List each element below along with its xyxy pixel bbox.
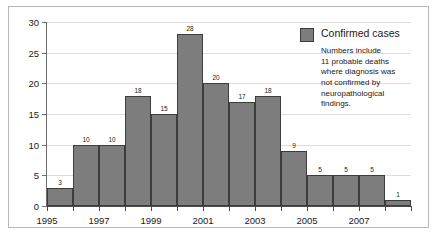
bar-value-label: 20 <box>212 74 219 81</box>
y-tick-label: 10 <box>28 139 39 150</box>
x-tick-label: 1995 <box>36 215 57 226</box>
x-tick-label: 2007 <box>348 215 369 226</box>
y-tick-mark <box>42 145 47 146</box>
x-tick-label: 2001 <box>192 215 213 226</box>
bar-value-label: 10 <box>82 136 89 143</box>
bar-value-label: 18 <box>264 87 271 94</box>
chart-legend: Confirmed cases Numbers include11 probab… <box>300 27 422 110</box>
bar-value-label: 17 <box>238 93 245 100</box>
bar-value-label: 15 <box>160 105 167 112</box>
bar <box>125 96 151 206</box>
y-tick-label: 20 <box>28 78 39 89</box>
x-tick-label: 2003 <box>244 215 265 226</box>
bar <box>359 175 385 206</box>
legend-entry: Confirmed cases <box>300 27 422 42</box>
x-tick-mark <box>73 206 74 211</box>
legend-swatch-confirmed-cases <box>300 28 314 42</box>
y-tick-mark <box>42 83 47 84</box>
x-tick-mark <box>385 206 386 211</box>
legend-note-line: neuropathological <box>321 89 421 100</box>
gridline <box>47 22 411 23</box>
bar-value-label: 10 <box>108 136 115 143</box>
x-tick-mark <box>47 206 48 211</box>
chart-figure: 051015202530 199519971999200120032005200… <box>0 0 440 241</box>
bar-value-label: 5 <box>370 166 374 173</box>
bar <box>333 175 359 206</box>
bar-value-label: 3 <box>58 179 62 186</box>
legend-note-line: not confirmed by <box>321 78 421 89</box>
bar <box>177 34 203 206</box>
bar <box>255 96 281 206</box>
y-tick-mark <box>42 114 47 115</box>
bar <box>281 151 307 206</box>
x-tick-mark <box>359 206 360 211</box>
y-tick-label: 0 <box>34 201 39 212</box>
bar <box>47 188 73 206</box>
y-tick-label: 5 <box>34 170 39 181</box>
x-tick-label: 1997 <box>88 215 109 226</box>
bar <box>99 145 125 206</box>
x-tick-mark <box>333 206 334 211</box>
bar <box>203 83 229 206</box>
bar <box>151 114 177 206</box>
bar-value-label: 28 <box>186 25 193 32</box>
x-tick-mark <box>177 206 178 211</box>
x-tick-mark <box>307 206 308 211</box>
bar <box>307 175 333 206</box>
legend-note-line: 11 probable deaths <box>321 57 421 68</box>
y-tick-mark <box>42 22 47 23</box>
x-tick-mark <box>411 206 412 211</box>
bar-value-label: 5 <box>318 166 322 173</box>
y-tick-mark <box>42 175 47 176</box>
x-tick-label: 2005 <box>296 215 317 226</box>
legend-label: Confirmed cases <box>321 27 400 40</box>
bar-value-label: 5 <box>344 166 348 173</box>
y-tick-label: 30 <box>28 17 39 28</box>
legend-note-line: findings. <box>321 99 421 110</box>
bar-value-label: 9 <box>292 142 296 149</box>
y-tick-label: 15 <box>28 109 39 120</box>
bar <box>385 200 411 206</box>
bar <box>73 145 99 206</box>
x-tick-mark <box>151 206 152 211</box>
x-tick-mark <box>229 206 230 211</box>
x-tick-label: 1999 <box>140 215 161 226</box>
bar <box>229 102 255 206</box>
x-tick-mark <box>125 206 126 211</box>
bar-value-label: 1 <box>396 191 400 198</box>
y-tick-label: 25 <box>28 47 39 58</box>
y-tick-mark <box>42 53 47 54</box>
x-tick-mark <box>99 206 100 211</box>
x-tick-mark <box>255 206 256 211</box>
legend-note: Numbers include11 probable deathswhere d… <box>321 46 421 110</box>
x-tick-mark <box>281 206 282 211</box>
bar-value-label: 18 <box>134 87 141 94</box>
legend-note-line: where diagnosis was <box>321 67 421 78</box>
x-tick-mark <box>203 206 204 211</box>
legend-note-line: Numbers include <box>321 46 421 57</box>
